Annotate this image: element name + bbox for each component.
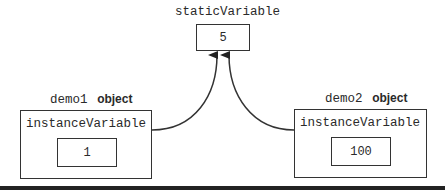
demo1-object-box: instanceVariable 1 (20, 110, 152, 179)
static-variable-value: 5 (219, 31, 226, 45)
demo1-suffix: object (97, 92, 132, 106)
demo1-value-box: 1 (57, 138, 117, 167)
demo1-heading: demo1 object (50, 90, 132, 108)
demo2-name: demo2 (325, 92, 363, 106)
demo1-field-label: instanceVariable (26, 117, 146, 131)
demo2-value: 100 (350, 145, 372, 159)
bottom-rule (0, 186, 445, 190)
demo2-value-box: 100 (331, 137, 391, 166)
static-variable-label: staticVariable (175, 5, 280, 19)
arrow-demo2-to-static (229, 55, 294, 130)
demo1-name: demo1 (50, 93, 88, 107)
demo2-object-box: instanceVariable 100 (294, 109, 427, 178)
static-variable-box: 5 (196, 24, 250, 51)
demo2-field-label: instanceVariable (300, 116, 420, 130)
demo2-heading: demo2 object (325, 89, 407, 107)
demo1-value: 1 (83, 146, 90, 160)
arrow-demo1-to-static (152, 55, 217, 130)
demo2-suffix: object (372, 91, 407, 105)
